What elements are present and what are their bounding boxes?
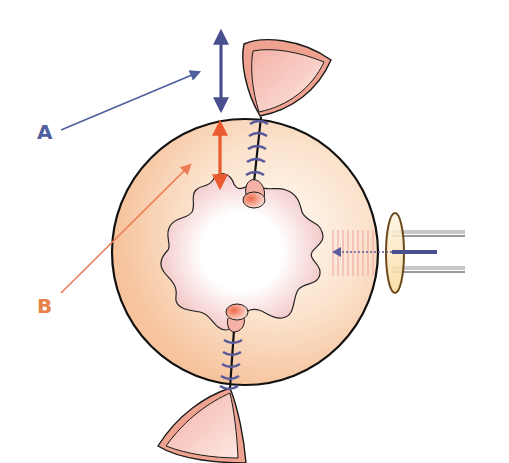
label-a: A [37, 122, 52, 142]
top-flap [243, 40, 331, 116]
bottom-flap [158, 388, 246, 463]
diagram-canvas [0, 0, 509, 463]
label-b: B [37, 296, 52, 316]
pointer-a [61, 72, 199, 130]
